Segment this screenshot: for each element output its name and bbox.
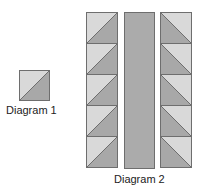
diagram-2-right-column [160,12,192,169]
diagram-2-label: Diagram 2 [114,173,165,185]
triangle-column-mirrored-icon [160,12,192,169]
diagram-1-label: Diagram 1 [6,104,57,116]
diagram-2-left-column [86,12,118,169]
diagram-1-block [19,70,50,101]
triangle-column-icon [86,12,118,169]
half-square-triangle-icon [19,70,50,101]
diagram-2-center-strip [124,12,155,169]
